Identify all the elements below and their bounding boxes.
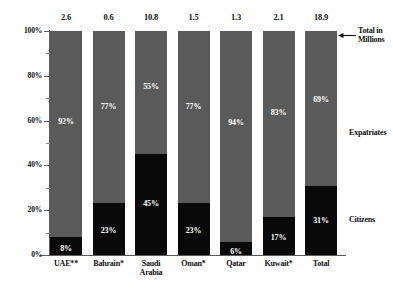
total-millions-label: 2.1 [257, 13, 301, 22]
bar-value-label-expatriates: 69% [305, 96, 337, 104]
bar-column: 77%23% [93, 31, 125, 255]
total-millions-label: 1.3 [214, 13, 258, 22]
total-millions-label: 1.5 [172, 13, 216, 22]
bar-segment-expatriates: 69% [305, 31, 337, 186]
y-axis-tick-label: 0% [14, 251, 42, 259]
total-millions-label: 2.6 [44, 13, 88, 22]
bar-value-label-expatriates: 55% [135, 83, 167, 91]
y-axis-tick-label: 80% [14, 72, 42, 80]
y-axis-tick-label: 60% [14, 117, 42, 125]
y-axis-tick-label: 40% [14, 161, 42, 169]
bar-value-label-citizens: 17% [263, 234, 295, 242]
stacked-bar-chart: 0%20%40%60%80%100% 92%8%77%23%55%45%77%2… [0, 0, 393, 297]
bar-segment-expatriates: 77% [93, 31, 125, 203]
annotation-total-in-millions: Total in Millions [358, 26, 384, 44]
bar-value-label-citizens: 23% [93, 227, 125, 235]
bar-value-label-citizens: 23% [178, 227, 210, 235]
bar-segment-expatriates: 83% [263, 31, 295, 217]
total-millions-label: 0.6 [87, 13, 131, 22]
bar-value-label-expatriates: 83% [263, 109, 295, 117]
y-axis-tick-label: 20% [14, 206, 42, 214]
bar-value-label-citizens: 31% [305, 217, 337, 225]
bar-segment-expatriates: 94% [220, 31, 252, 242]
bar-column: 69%31% [305, 31, 337, 255]
bar-segment-expatriates: 55% [135, 31, 167, 154]
bar-segment-citizens: 6% [220, 242, 252, 255]
bar-column: 77%23% [178, 31, 210, 255]
bar-segment-citizens: 17% [263, 217, 295, 255]
bar-segment-expatriates: 77% [178, 31, 210, 203]
bar-segment-citizens: 8% [50, 237, 82, 255]
bar-segment-citizens: 45% [135, 154, 167, 255]
bar-value-label-expatriates: 92% [50, 118, 82, 126]
bar-value-label-citizens: 45% [135, 200, 167, 208]
annotation-expatriates: Expatriates [349, 128, 386, 137]
total-millions-label: 18.9 [299, 13, 343, 22]
bar-column: 55%45% [135, 31, 167, 255]
bars-area: 92%8%77%23%55%45%77%23%94%6%83%17%69%31% [50, 31, 335, 255]
total-millions-label: 10.8 [129, 13, 173, 22]
bar-segment-citizens: 31% [305, 186, 337, 255]
x-axis-category-label: Total [293, 260, 349, 269]
y-axis-tick-label: 100% [14, 27, 42, 35]
x-axis-line [40, 255, 346, 256]
arrow-icon [338, 32, 357, 39]
bar-column: 94%6% [220, 31, 252, 255]
bar-value-label-expatriates: 77% [93, 103, 125, 111]
bar-value-label-citizens: 8% [50, 245, 82, 253]
bar-column: 92%8% [50, 31, 82, 255]
y-tick-major [44, 255, 50, 256]
bar-value-label-expatriates: 77% [178, 103, 210, 111]
bar-segment-citizens: 23% [178, 203, 210, 255]
bar-value-label-expatriates: 94% [220, 119, 252, 127]
bar-column: 83%17% [263, 31, 295, 255]
bar-segment-expatriates: 92% [50, 31, 82, 237]
bar-segment-citizens: 23% [93, 203, 125, 255]
annotation-citizens: Citizens [349, 215, 375, 224]
bar-value-label-citizens: 6% [220, 248, 252, 256]
